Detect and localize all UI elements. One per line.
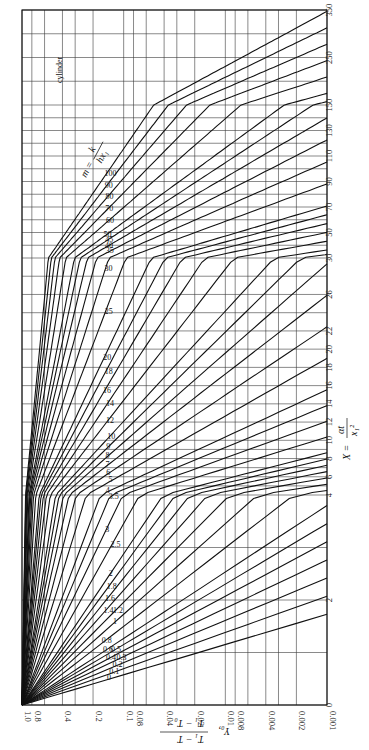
x-tick-label: 26 xyxy=(324,290,334,299)
x-tick-label: 0 xyxy=(324,703,334,707)
x-tick-label: 2 xyxy=(324,598,334,602)
svg-text:Y₀,: Y₀, xyxy=(218,726,230,737)
curve-label: 0.8 xyxy=(102,636,112,645)
svg-text:T₁ − T: T₁ − T xyxy=(176,734,204,745)
curve-label: 10 xyxy=(107,432,115,441)
x-axis-label: X = αt x₁² xyxy=(335,418,359,461)
curve-label: 16 xyxy=(103,386,111,395)
chart-title: cylinder xyxy=(55,57,64,84)
curve-label: 30 xyxy=(105,264,113,273)
curve-m=50 xyxy=(22,93,327,705)
curve-m=1.0 xyxy=(22,484,327,705)
curve-m=1.2 xyxy=(22,478,327,705)
curve-labels: 00.10.20.30.40.50.60.811.21.41.61.822.53… xyxy=(102,169,127,681)
x-tick-label: 70 xyxy=(324,203,334,212)
x-tick-label: 30 xyxy=(324,254,334,263)
curve-label: 90 xyxy=(105,181,113,190)
y-tick-label: 0.002 xyxy=(297,711,307,730)
curve-label: 0.6 xyxy=(103,645,113,654)
curve-label: 9 xyxy=(106,442,110,451)
x-tick-label: 50 xyxy=(324,228,334,237)
y-tick-label: 1.0 xyxy=(23,711,33,722)
heisler-chart-cylinder: 00.10.20.30.40.50.60.811.21.41.61.822.53… xyxy=(0,0,369,750)
x-tick-label: 20 xyxy=(324,345,334,354)
curve-m=100 xyxy=(22,11,327,705)
curve-m=70 xyxy=(22,61,327,705)
curve-label: 6 xyxy=(106,468,110,477)
y-tick-label: 0.08 xyxy=(135,711,145,726)
curve-label: 12 xyxy=(106,416,114,425)
y-tick-label: 0.8 xyxy=(33,711,43,722)
curve-family xyxy=(22,11,327,705)
y-tick-label: 0.2 xyxy=(94,711,104,722)
y-tick-label: 0.008 xyxy=(236,711,246,730)
curve-label: 4 xyxy=(106,486,110,495)
curve-label: 1 xyxy=(113,617,117,626)
svg-text:x₁²: x₁² xyxy=(348,424,359,437)
curve-m=20 xyxy=(22,206,327,705)
curve-m=0.6 xyxy=(22,506,327,706)
x-tick-label: 6 xyxy=(324,475,334,479)
curve-label: 60 xyxy=(106,216,114,225)
curve-label: 80 xyxy=(106,192,114,201)
x-tick-label: 14 xyxy=(324,399,334,408)
y-tick-label: 0.1 xyxy=(125,711,135,722)
curve-m=12 xyxy=(22,241,327,705)
curve-label: 1.8 xyxy=(107,582,117,591)
x-tick-label: 22 xyxy=(324,327,334,336)
curve-m=7 xyxy=(22,295,327,705)
svg-text:X =: X = xyxy=(341,445,352,461)
x-tick-label: 250 xyxy=(324,51,334,64)
x-tick-label: 10 xyxy=(324,436,334,445)
x-tick-label: 16 xyxy=(324,381,334,390)
svg-text:αt: αt xyxy=(335,426,346,434)
x-tick-label: 130 xyxy=(324,124,334,137)
x-tick-label: 18 xyxy=(324,363,334,372)
curve-label: 3.5 xyxy=(109,492,119,501)
curve-label: 3 xyxy=(105,525,109,534)
x-tick-label: 8 xyxy=(324,456,334,460)
x-tick-label: 12 xyxy=(324,418,334,427)
y-tick-label: 0.004 xyxy=(267,711,277,731)
curve-label: 2 xyxy=(109,569,113,578)
curve-m=18 xyxy=(22,215,327,705)
y-tick-label: 0.04 xyxy=(165,711,175,727)
x-tick-label: 90 xyxy=(324,177,334,186)
x-tick-label: 110 xyxy=(324,150,334,162)
curve-label: 7 xyxy=(106,460,110,469)
curve-label: 70 xyxy=(105,204,113,213)
svg-text:k: k xyxy=(86,144,98,154)
x-tick-label: 4 xyxy=(324,492,334,497)
curve-label: 1.4 xyxy=(103,606,113,615)
curve-label: 14 xyxy=(106,399,114,408)
curve-m=0.1 xyxy=(22,596,327,705)
x-axis-ticks: 0246810121416182022263050709011013015025… xyxy=(324,4,334,708)
curve-label: 20 xyxy=(103,353,111,362)
curve-label: 18 xyxy=(105,367,113,376)
x-tick-label: 350 xyxy=(324,4,334,17)
y-tick-label: 0.01 xyxy=(226,711,236,726)
curve-label: 0.3 xyxy=(116,653,126,662)
curve-label: 1.2 xyxy=(113,606,123,615)
svg-text:T₁ − T₀: T₁ − T₀ xyxy=(174,718,204,729)
curve-m=0.8 xyxy=(22,491,327,706)
x-tick-label: 150 xyxy=(324,99,334,112)
curve-label: 0.4 xyxy=(106,653,116,662)
curve-m=0 xyxy=(22,614,327,705)
curve-label: 25 xyxy=(105,307,113,316)
curve-m=35 xyxy=(22,140,327,705)
curve-label: 2.5 xyxy=(110,540,120,549)
curve-label: 1.6 xyxy=(105,594,115,603)
curve-label: 8 xyxy=(106,451,110,460)
y-tick-label: 0.001 xyxy=(328,711,338,730)
y-tick-label: 0.4 xyxy=(63,711,73,722)
curve-label: 100 xyxy=(105,169,117,178)
curve-label: 50 xyxy=(104,230,112,239)
